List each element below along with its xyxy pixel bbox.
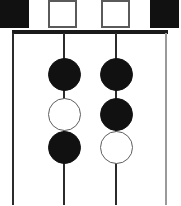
offspring-circle-r3 xyxy=(100,131,133,164)
offspring-circle-l1 xyxy=(48,58,81,91)
descent-line-4 xyxy=(165,33,167,205)
offspring-circle-r1 xyxy=(100,58,133,91)
sibship-line xyxy=(12,30,168,34)
parent-square-4 xyxy=(150,0,179,28)
offspring-circle-r2 xyxy=(100,98,133,131)
offspring-circle-l2 xyxy=(48,98,81,131)
offspring-circle-l3 xyxy=(48,131,81,164)
parent-square-2 xyxy=(48,0,77,28)
descent-line-1 xyxy=(12,33,14,205)
parent-square-3 xyxy=(101,0,130,28)
parent-square-1 xyxy=(0,0,29,28)
pedigree-diagram xyxy=(0,0,181,206)
